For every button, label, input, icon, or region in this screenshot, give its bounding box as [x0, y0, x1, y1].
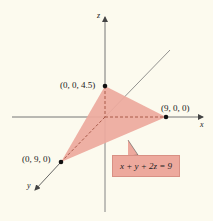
diagram-canvas: z x y (0, 0, 4.5) (9, 0, 0) (0, 9, 0) x … [0, 0, 213, 221]
y-axis [35, 162, 61, 190]
x-intercept-label: (9, 0, 0) [161, 104, 190, 113]
plane-equation-text: x + y + 2z = 9 [120, 161, 172, 171]
point-x-intercept [164, 115, 169, 120]
point-y-intercept [59, 160, 64, 165]
callout-pointer [128, 140, 138, 156]
x-axis-label: x [200, 121, 204, 129]
point-z-intercept [103, 84, 108, 89]
z-axis-label: z [97, 12, 100, 20]
y-intercept-label: (0, 9, 0) [22, 155, 51, 164]
y-axis-label: y [27, 182, 31, 190]
z-intercept-label: (0, 0, 4.5) [60, 81, 95, 90]
plane-equation-label: x + y + 2z = 9 [112, 155, 180, 177]
plane-triangle [61, 86, 166, 162]
